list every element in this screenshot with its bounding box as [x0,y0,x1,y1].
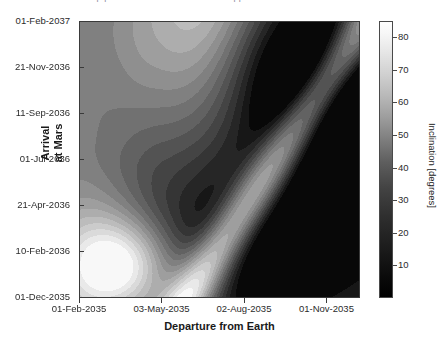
y-tick-label: 01-Feb-2037 [16,16,70,26]
colorbar-tick-label: 40 [398,163,409,173]
y-tick-mark [79,159,84,160]
x-tick-label: 03-May-2035 [133,303,189,314]
y-tick-mark [79,67,84,68]
y-tick-label: 21-Apr-2036 [17,200,70,210]
y-axis-title: Arrival at Mars [39,113,65,173]
colorbar-tick-label: 10 [398,260,409,270]
y-tick-mark [79,251,84,252]
colorbar-tick-mark [393,265,397,266]
colorbar-tick-mark [393,70,397,71]
colorbar-tick-mark [393,135,397,136]
colorbar-tick-label: 70 [398,65,409,75]
x-tick-label: 01-Feb-2035 [52,303,106,314]
y-tick-label: 21-Nov-2036 [15,62,70,72]
x-tick-mark [244,298,245,303]
plot-axes [79,21,360,298]
colorbar-tick-label: 80 [398,32,409,42]
y-tick-label: 01-Dec-2035 [15,292,70,302]
x-tick-label: 01-Nov-2035 [299,303,354,314]
colorbar-title: Inclination [degrees] [427,106,438,226]
y-tick-mark [79,113,84,114]
contour-heatmap [80,22,359,297]
y-tick-label: 10-Feb-2036 [16,246,70,256]
colorbar-tick-label: 50 [398,130,409,140]
figure-title: Porkchop plot — Earth to Mars transfer o… [62,0,283,2]
colorbar-tick-label: 30 [398,195,409,205]
colorbar-tick-label: 20 [398,228,409,238]
x-tick-mark [161,298,162,303]
colorbar [379,21,393,298]
colorbar-tick-mark [393,233,397,234]
colorbar-tick-mark [393,102,397,103]
x-tick-mark [79,298,80,303]
colorbar-tick-mark [393,37,397,38]
cropped-title-strip: Porkchop plot — Earth to Mars transfer o… [0,0,436,7]
x-tick-label: 02-Aug-2035 [217,303,272,314]
colorbar-tick-mark [393,200,397,201]
x-tick-mark [326,298,327,303]
y-tick-mark [79,21,84,22]
colorbar-gradient [379,21,393,298]
x-axis-title: Departure from Earth [79,320,360,332]
y-tick-mark [79,205,84,206]
colorbar-tick-mark [393,168,397,169]
colorbar-tick-label: 60 [398,97,409,107]
